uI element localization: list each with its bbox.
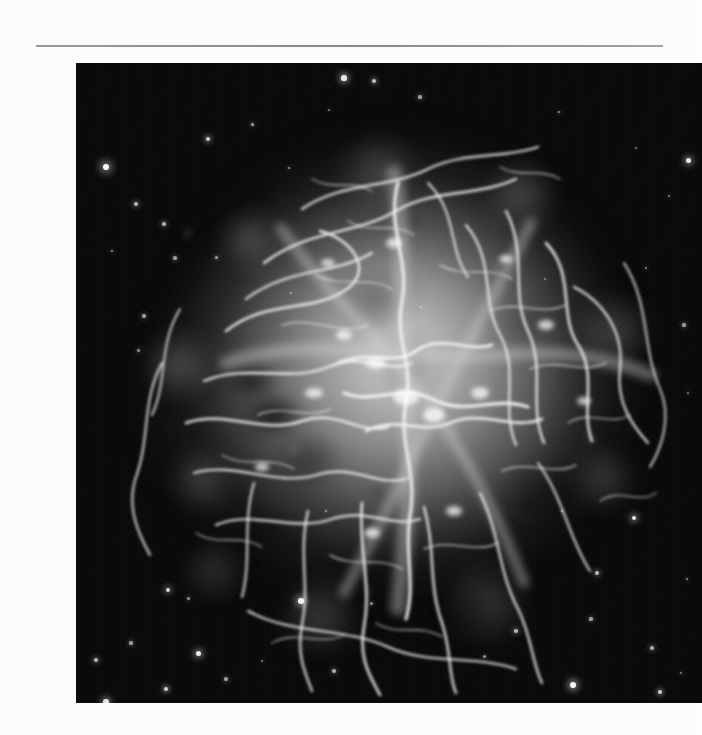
star — [570, 682, 576, 688]
star — [162, 222, 166, 226]
star — [111, 250, 114, 253]
star — [251, 123, 254, 126]
star — [187, 597, 190, 600]
star-field — [76, 63, 702, 703]
star — [514, 629, 518, 633]
star — [687, 392, 690, 395]
star — [589, 617, 592, 620]
star — [632, 516, 637, 521]
star — [544, 278, 546, 280]
star — [206, 137, 210, 141]
star — [658, 690, 662, 694]
star — [682, 323, 685, 326]
star — [196, 651, 201, 656]
star — [164, 687, 168, 691]
star — [420, 306, 422, 308]
star — [173, 256, 176, 259]
star — [668, 195, 671, 198]
star — [407, 477, 410, 480]
star — [370, 602, 373, 605]
star — [134, 202, 138, 206]
star — [372, 79, 376, 83]
star — [483, 655, 486, 658]
star — [686, 158, 691, 163]
star — [261, 660, 264, 663]
star — [332, 669, 335, 672]
scan-rule-line — [36, 45, 663, 47]
star — [650, 646, 653, 649]
crab-nebula-photograph — [76, 63, 702, 703]
star — [224, 677, 227, 680]
star — [595, 571, 599, 575]
star — [94, 658, 98, 662]
star — [635, 147, 637, 149]
star — [328, 109, 331, 112]
star — [645, 267, 648, 270]
star — [288, 167, 291, 170]
star — [686, 578, 689, 581]
star — [341, 75, 346, 80]
star — [418, 95, 421, 98]
star — [325, 510, 328, 513]
star — [561, 510, 564, 513]
star — [215, 256, 218, 259]
star — [166, 588, 171, 593]
star — [129, 641, 132, 644]
star — [298, 598, 303, 603]
star — [290, 292, 292, 294]
star — [558, 111, 561, 114]
star — [680, 672, 683, 675]
star — [142, 314, 145, 317]
star — [137, 349, 140, 352]
star — [103, 164, 110, 171]
star — [103, 699, 108, 703]
